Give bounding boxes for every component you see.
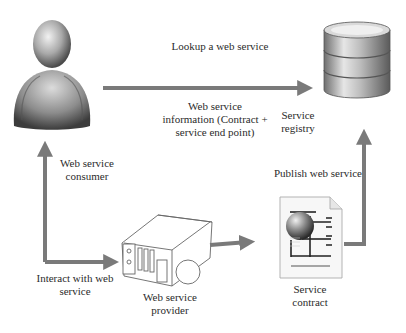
- contract-label: Service contract: [280, 283, 340, 309]
- publish-arrow: [344, 136, 364, 244]
- database-icon: [324, 22, 390, 98]
- web-service-info-label: Web service information (Contract + serv…: [150, 100, 280, 139]
- document-globe-icon: [280, 197, 342, 278]
- consumer-label: Web service consumer: [52, 157, 122, 183]
- provider-label: Web service provider: [130, 291, 210, 317]
- publish-label: Publish web service: [263, 167, 373, 180]
- server-icon: [122, 215, 212, 286]
- interact-label: Interact with web service: [30, 272, 120, 298]
- lookup-label: Lookup a web service: [150, 40, 290, 53]
- provider-to-contract-arrow: [210, 242, 248, 245]
- person-icon: [14, 20, 90, 130]
- registry-label: Service registry: [268, 109, 328, 135]
